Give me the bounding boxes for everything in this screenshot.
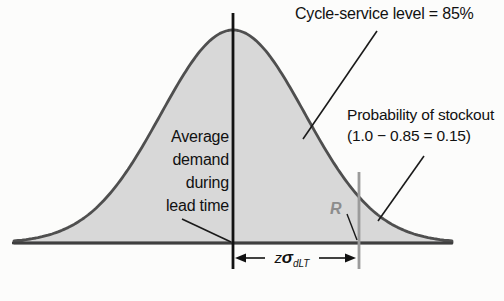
stockout-leader-line [378,156,424,221]
probability-of-stockout-label: Probability of stockout (1.0 − 0.85 = 0.… [347,104,494,146]
distribution-figure: Cycle-service level = 85% Probability of… [0,0,504,301]
stockout-label-line2: (1.0 − 0.85 = 0.15) [347,127,471,144]
arrowhead-right-icon [345,254,356,263]
avg-demand-line3: during [119,171,229,194]
figure-canvas [0,0,504,301]
reorder-point-label: R [330,199,341,219]
z-sigma-dlt-label: zσdLT [261,247,323,271]
sigma-symbol: σ [282,248,293,267]
avg-demand-line2: demand [119,148,229,171]
z-symbol: z [275,249,282,266]
stockout-label-line1: Probability of stockout [347,106,494,123]
arrowhead-left-icon [235,254,246,263]
cycle-service-level-label: Cycle-service level = 85% [295,4,474,24]
average-demand-label: Average demand during lead time [119,125,229,217]
sigma-subscript: dLT [293,258,310,269]
avg-demand-line1: Average [119,125,229,148]
avg-demand-line4: lead time [119,194,229,217]
